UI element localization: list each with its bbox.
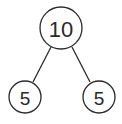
- right-child-label: 5: [94, 88, 105, 109]
- edge-right: [72, 47, 90, 82]
- edge-left: [33, 47, 51, 82]
- number-bond-diagram: 10 5 5: [0, 0, 122, 124]
- root-node-label: 10: [49, 17, 73, 42]
- left-child-node: 5: [9, 81, 41, 113]
- root-node: 10: [40, 7, 82, 49]
- left-child-label: 5: [20, 88, 31, 109]
- right-child-node: 5: [83, 81, 115, 113]
